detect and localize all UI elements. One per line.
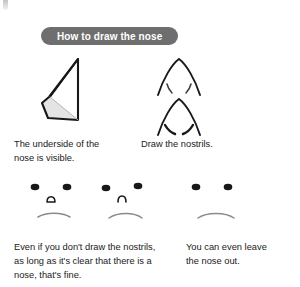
face1-mouth [38, 213, 70, 217]
face2-mouth [109, 214, 142, 219]
face1-eye-right [63, 184, 72, 191]
illustration-page: How to draw the nose The underside of th… [0, 0, 300, 287]
nose-bridge-crease [50, 59, 78, 97]
nostrils-drawing [152, 57, 212, 137]
face1-eye-left [31, 184, 40, 191]
face-with-plain-nose [96, 180, 160, 222]
nostril-stroke-upper-left [167, 84, 172, 93]
page-corner-mark [3, 0, 8, 10]
nose-arch-lower [158, 99, 200, 135]
section-title-badge: How to draw the nose [41, 27, 178, 45]
nostril-stroke-lower-left [165, 125, 175, 134]
nose-underside-drawing [38, 57, 98, 135]
face1-nose [47, 197, 55, 202]
nose-arch-upper [158, 59, 200, 95]
face3-eye-right [224, 184, 233, 191]
face-with-nostril-nose [22, 180, 86, 222]
face2-nose [118, 196, 126, 202]
note-nose-optional: You can even leave the nose out. [186, 240, 294, 268]
nostril-stroke-upper-right [186, 84, 191, 93]
face3-mouth [198, 214, 234, 219]
face-with-plain-nose-figure [96, 180, 160, 222]
nose-underside-figure [38, 57, 98, 135]
caption-nose-underside: The underside of the nose is visible. [14, 138, 138, 165]
note-nostrils-optional: Even if you don't draw the nostrils, as … [14, 240, 180, 282]
face-without-nose-figure [182, 180, 252, 222]
caption-draw-nostrils: Draw the nostrils. [141, 138, 261, 152]
face2-eye-right [134, 183, 143, 190]
face3-eye-left [192, 184, 201, 191]
nostril-stroke-lower-right [183, 125, 193, 134]
face2-eye-left [102, 185, 111, 192]
face-with-nostril-nose-figure [22, 180, 86, 222]
nostrils-figure [152, 57, 212, 137]
face-without-nose [182, 180, 252, 222]
